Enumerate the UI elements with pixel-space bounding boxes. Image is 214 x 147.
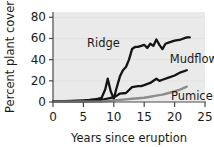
y-tick-label-80: 80 <box>31 10 46 24</box>
plant-cover-line-chart: 020406080 0510152025 RidgeMudflowPumice … <box>0 0 214 147</box>
x-axis-ticks: 0510152025 <box>49 102 212 124</box>
x-tick-label-15: 15 <box>137 110 152 124</box>
y-tick-label-40: 40 <box>31 53 46 67</box>
x-axis-title: Years since eruption <box>70 131 187 145</box>
series-label-ridge: Ridge <box>87 36 120 50</box>
y-tick-label-0: 0 <box>38 95 46 109</box>
y-tick-label-20: 20 <box>31 74 46 88</box>
x-tick-label-25: 25 <box>197 110 212 124</box>
y-axis-title: Percent plant cover <box>3 1 17 113</box>
chart-figure: 020406080 0510152025 RidgeMudflowPumice … <box>0 0 214 147</box>
x-tick-label-5: 5 <box>80 110 88 124</box>
x-tick-label-20: 20 <box>167 110 182 124</box>
x-tick-label-0: 0 <box>49 110 57 124</box>
y-tick-label-60: 60 <box>31 31 46 45</box>
x-tick-label-10: 10 <box>106 110 121 124</box>
series-label-mudflow: Mudflow <box>170 52 214 66</box>
series-label-pumice: Pumice <box>171 89 213 103</box>
y-axis-ticks: 020406080 <box>31 10 53 109</box>
